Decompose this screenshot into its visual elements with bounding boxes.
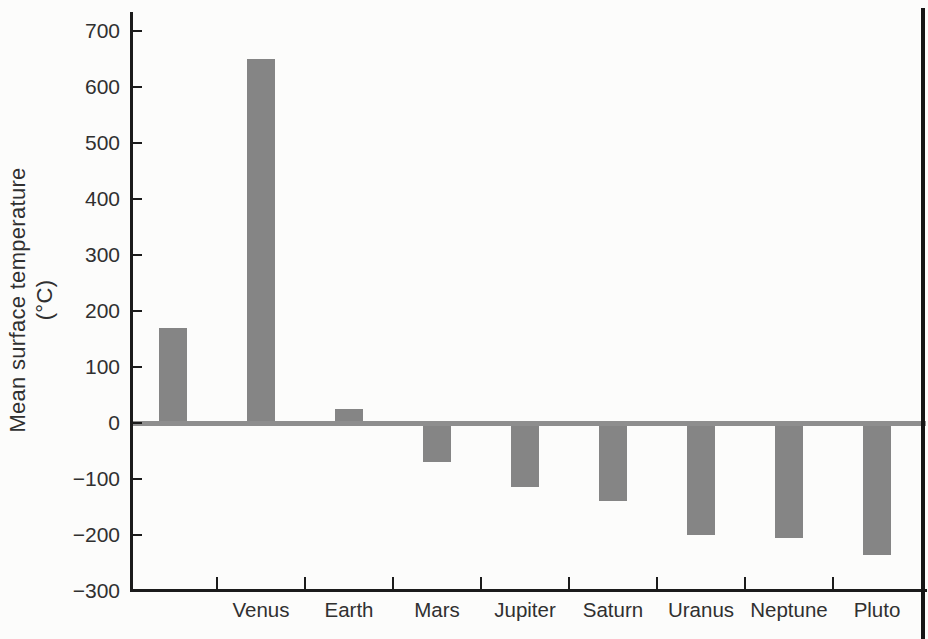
x-tick-mark-7	[744, 577, 747, 591]
y-tick-mark-700	[133, 30, 143, 33]
y-tick-label--100: −100	[0, 467, 120, 491]
x-tick-mark-4	[480, 577, 483, 591]
x-axis-line	[130, 589, 927, 592]
bar-chart-figure: Mean surface temperature (°C) 7006005004…	[0, 0, 928, 639]
y-axis-line	[130, 12, 133, 591]
y-tick-label-700: 700	[0, 19, 120, 43]
y-tick-mark--300	[133, 590, 143, 593]
y-tick-mark--200	[133, 534, 143, 537]
y-tick-label-400: 400	[0, 187, 120, 211]
y-tick-mark-0	[133, 422, 143, 425]
bar-saturn	[599, 421, 627, 501]
y-tick-mark-400	[133, 198, 143, 201]
y-tick-label-600: 600	[0, 75, 120, 99]
y-tick-mark-500	[133, 142, 143, 145]
y-tick-mark-100	[133, 366, 143, 369]
bar-uranus	[687, 421, 715, 535]
bar-neptune	[775, 421, 803, 538]
y-tick-mark-600	[133, 86, 143, 89]
y-tick-label--300: −300	[0, 579, 120, 603]
x-tick-mark-3	[392, 577, 395, 591]
y-tick-label-300: 300	[0, 243, 120, 267]
y-tick-mark-200	[133, 310, 143, 313]
y-tick-label-200: 200	[0, 299, 120, 323]
y-tick-label-100: 100	[0, 355, 120, 379]
page-edge-line	[921, 8, 925, 639]
x-tick-mark-1	[216, 577, 219, 591]
y-tick-label-0: 0	[0, 411, 120, 435]
x-tick-mark-5	[568, 577, 571, 591]
y-tick-mark-300	[133, 254, 143, 257]
x-tick-mark-6	[656, 577, 659, 591]
y-tick-mark--100	[133, 478, 143, 481]
bar-mars	[423, 421, 451, 462]
bar-jupiter	[511, 421, 539, 487]
zero-gridline	[131, 421, 926, 426]
x-tick-mark-8	[832, 577, 835, 591]
y-tick-label--200: −200	[0, 523, 120, 547]
bar-venus	[247, 59, 275, 425]
bar-pluto	[863, 421, 891, 555]
x-tick-mark-2	[304, 577, 307, 591]
bar-0	[159, 328, 187, 425]
y-tick-label-500: 500	[0, 131, 120, 155]
x-label-pluto: Pluto	[822, 598, 928, 622]
